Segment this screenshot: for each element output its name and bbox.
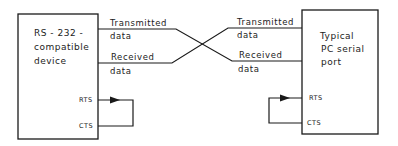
right-received-label: Received (239, 50, 282, 61)
right-device-label-line-1: Typical (320, 30, 354, 42)
left-device-label-line-3: device (34, 55, 67, 67)
left-transmitted-label: Transmitted (110, 18, 167, 29)
right-loopback-arrow-icon (280, 95, 290, 102)
left-rts-cts-loopback (98, 100, 133, 126)
right-device-box (302, 10, 378, 134)
left-loopback-arrow-icon (110, 97, 120, 104)
right-device-label-line-3: port (321, 56, 341, 68)
left-cts-pin-label: CTS (79, 122, 93, 130)
left-transmitted-data-label: data (110, 31, 132, 42)
right-transmitted-label: Transmitted (237, 17, 294, 28)
right-cts-pin-label: CTS (307, 119, 321, 127)
left-received-data-label: data (110, 66, 132, 77)
right-rts-pin-label: RTS (309, 94, 323, 102)
left-device-label-line-2: compatible (34, 41, 89, 53)
right-device-label-line-2: PC serial (321, 43, 365, 55)
left-rts-pin-label: RTS (79, 96, 93, 104)
left-received-label: Received (111, 52, 154, 63)
right-received-data-label: data (238, 64, 260, 75)
right-rts-cts-loopback (269, 98, 302, 123)
left-device-label-line-1: RS - 232 - (34, 27, 83, 39)
diagram-lines (0, 0, 398, 146)
right-transmitted-data-label: data (237, 30, 259, 41)
rs232-crossover-diagram: RS - 232 - compatible device RTS CTS Typ… (0, 0, 398, 146)
